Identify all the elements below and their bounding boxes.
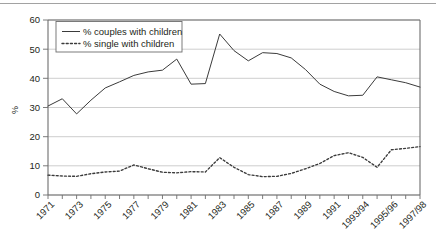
x-tick-label: 1993/94 — [339, 199, 371, 231]
legend-label-couples: % couples with children — [83, 26, 182, 37]
x-tick-label: 1987 — [263, 199, 286, 222]
y-axis-title: % — [10, 106, 20, 114]
x-tick-label: 1973 — [62, 199, 85, 222]
x-tick-label: 1971 — [34, 199, 57, 222]
x-tick-label: 1981 — [177, 199, 200, 222]
line-chart-svg: 0 10 20 30 40 50 60 % 197119731975197719… — [0, 0, 436, 232]
legend: % couples with children % single with ch… — [56, 22, 182, 53]
chart-figure: 0 10 20 30 40 50 60 % 197119731975197719… — [0, 0, 436, 232]
x-tick-label: 1975 — [91, 199, 114, 222]
y-tick-label: 10 — [29, 160, 40, 171]
x-axis-ticks — [48, 195, 420, 199]
x-tick-label: 1977 — [120, 199, 143, 222]
x-tick-label: 1997/98 — [396, 199, 428, 231]
x-tick-label: 1985 — [234, 199, 257, 222]
legend-label-single: % single with children — [83, 38, 174, 49]
y-tick-label: 30 — [29, 102, 40, 113]
y-tick-label: 40 — [29, 73, 40, 84]
x-tick-label: 1989 — [291, 199, 314, 222]
y-axis-ticks — [43, 20, 48, 195]
y-tick-label: 50 — [29, 44, 40, 55]
x-tick-label: 1979 — [148, 199, 171, 222]
y-tick-label: 20 — [29, 131, 40, 142]
x-tick-label: 1983 — [205, 199, 228, 222]
x-axis-tick-labels: 1971197319751977197919811983198519871989… — [34, 199, 429, 231]
series-line-single-with-children — [48, 147, 420, 177]
y-axis-tick-labels: 0 10 20 30 40 50 60 — [29, 14, 40, 200]
x-tick-label: 1991 — [320, 199, 343, 222]
x-tick-label: 1995/96 — [368, 199, 400, 231]
y-tick-label: 60 — [29, 14, 40, 25]
y-tick-label: 0 — [35, 189, 40, 200]
